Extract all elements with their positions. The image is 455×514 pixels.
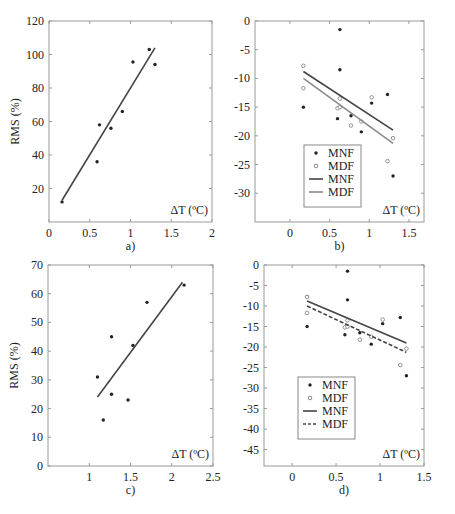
chart-panel-d: 00.511.50-5-10-15-20-25-30-35-40-45ΔT (º… — [243, 258, 432, 497]
fit-line-mnf — [307, 301, 406, 343]
legend-label: MDF — [322, 391, 348, 405]
data-point-mnf — [360, 130, 363, 133]
y-tick-label: 40 — [31, 344, 43, 358]
x-axis-label: ΔT (ºC) — [171, 447, 209, 461]
legend-marker-open-icon — [314, 164, 318, 168]
data-point-mdf — [349, 124, 353, 128]
y-tick-label: -30 — [243, 381, 259, 395]
plot-frame — [49, 21, 212, 222]
x-tick-label: 0 — [287, 226, 293, 240]
x-tick-label: 1 — [377, 470, 383, 484]
y-tick-label: 30 — [31, 373, 43, 387]
y-tick-label: -25 — [243, 361, 259, 375]
legend-label: MNF — [322, 404, 348, 418]
data-point-mdf — [381, 318, 385, 322]
y-axis-label: RMS (%) — [8, 98, 22, 144]
legend-label: MDF — [328, 159, 354, 173]
y-tick-label: -35 — [243, 402, 259, 416]
legend-label: MNF — [322, 378, 348, 392]
data-point — [96, 375, 99, 378]
y-tick-label: -10 — [243, 299, 259, 313]
y-tick-label: -40 — [243, 422, 259, 436]
chart-panel-a: 00.511.5220406080100120ΔT (ºC)RMS (%)a) — [8, 14, 215, 253]
data-point — [95, 160, 98, 163]
x-tick-label: 0.5 — [329, 470, 344, 484]
x-axis-label: ΔT (ºC) — [382, 447, 420, 461]
fit-line-mdf — [307, 306, 406, 352]
y-tick-label: -25 — [234, 158, 250, 172]
fit-line-mdf — [303, 78, 393, 143]
y-tick-label: 50 — [31, 315, 43, 329]
y-tick-label: -20 — [243, 340, 259, 354]
data-point-mnf — [399, 316, 402, 319]
data-point — [102, 418, 105, 421]
data-point — [131, 60, 134, 63]
data-point-mnf — [405, 374, 408, 377]
data-point-mdf — [302, 64, 306, 68]
data-point-mnf — [305, 325, 308, 328]
x-tick-label: 2 — [169, 470, 175, 484]
data-point — [126, 398, 129, 401]
x-tick-label: 1.5 — [417, 470, 432, 484]
y-tick-label: 60 — [31, 287, 43, 301]
data-point-mnf — [370, 101, 373, 104]
data-point — [98, 123, 101, 126]
legend-marker-filled-icon — [308, 383, 311, 386]
fit-line-mnf — [303, 72, 393, 131]
data-point-mnf — [338, 68, 341, 71]
x-tick-label: 2.5 — [206, 470, 221, 484]
plot-frame — [48, 265, 213, 466]
legend-marker-filled-icon — [314, 151, 317, 154]
x-tick-label: 1.5 — [401, 226, 416, 240]
x-tick-label: 1 — [128, 226, 134, 240]
data-point-mdf — [391, 136, 395, 140]
x-tick-label: 0 — [46, 226, 52, 240]
data-point — [110, 393, 113, 396]
figure: 00.511.5220406080100120ΔT (ºC)RMS (%)a)0… — [0, 0, 455, 514]
data-point-mnf — [391, 174, 394, 177]
data-point-mnf — [336, 117, 339, 120]
data-point-mdf — [305, 295, 309, 299]
data-point-mnf — [386, 93, 389, 96]
data-point-mdf — [370, 96, 374, 100]
y-tick-label: 0 — [37, 459, 43, 473]
y-tick-label: 70 — [31, 258, 43, 272]
legend-label: MDF — [322, 417, 348, 431]
legend-label: MNF — [328, 146, 354, 160]
y-tick-label: -5 — [249, 279, 259, 293]
data-point-mnf — [358, 331, 361, 334]
y-tick-label: -15 — [243, 320, 259, 334]
y-tick-label: 100 — [26, 48, 44, 62]
panel-caption: d) — [339, 483, 349, 497]
data-point — [121, 110, 124, 113]
x-tick-label: 1 — [366, 226, 372, 240]
data-point — [182, 283, 185, 286]
legend-label: MNF — [328, 172, 354, 186]
y-tick-label: 20 — [32, 182, 44, 196]
data-point-mdf — [386, 159, 390, 163]
y-tick-label: -10 — [234, 71, 250, 85]
chart-panel-c: 11.522.5010203040506070ΔT (ºC)RMS (%)c) — [7, 258, 221, 497]
panel-caption: c) — [126, 483, 135, 497]
y-tick-label: 120 — [26, 14, 44, 28]
data-point-mdf — [398, 363, 402, 367]
data-point-mnf — [346, 298, 349, 301]
panel-caption: b) — [335, 239, 345, 253]
data-point — [109, 127, 112, 130]
data-point — [153, 63, 156, 66]
chart-panel-b: 00.511.50-5-10-15-20-25-30ΔT (ºC)b)MNFMD… — [234, 14, 424, 253]
data-point — [148, 48, 151, 51]
legend-marker-open-icon — [308, 396, 312, 400]
y-tick-label: 10 — [31, 430, 43, 444]
y-tick-label: -30 — [234, 186, 250, 200]
data-point-mnf — [381, 322, 384, 325]
data-point — [110, 335, 113, 338]
x-tick-label: 1.5 — [123, 470, 138, 484]
data-point-mdf — [358, 338, 362, 342]
x-tick-label: 0.5 — [82, 226, 97, 240]
y-tick-label: 80 — [32, 81, 44, 95]
y-tick-label: 0 — [253, 258, 259, 272]
y-tick-label: -5 — [240, 43, 250, 57]
data-point — [145, 301, 148, 304]
data-point-mnf — [302, 105, 305, 108]
